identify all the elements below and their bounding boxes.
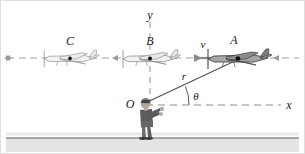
label-origin: O [126, 97, 135, 111]
label-velocity: v [201, 38, 206, 50]
airplane-c-position-marker [68, 57, 72, 61]
label-y-axis: y [146, 8, 153, 22]
label-plane-b: B [146, 34, 154, 48]
label-theta: θ [193, 90, 199, 102]
figure-background [0, 0, 305, 154]
label-plane-c: C [66, 34, 75, 48]
label-x-axis: x [285, 98, 292, 112]
airplane-a-position-marker [236, 56, 241, 61]
physics-diagram-figure: C B A y x v r θ O [0, 0, 305, 154]
label-radius: r [182, 70, 187, 82]
label-plane-a: A [229, 33, 238, 47]
airplane-b-position-marker [148, 56, 152, 60]
diagram-canvas: C B A y x v r θ O [0, 0, 305, 154]
